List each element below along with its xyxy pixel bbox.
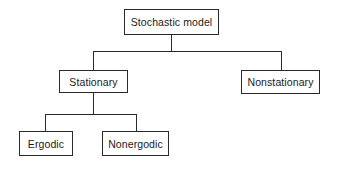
node-stochastic-model: Stochastic model	[124, 9, 219, 35]
connector-to-stationary	[93, 51, 94, 70]
node-nonstationary: Nonstationary	[241, 70, 320, 94]
connector-level2-bar	[45, 114, 137, 115]
connector-root-down	[171, 35, 172, 51]
node-ergodic: Ergodic	[19, 131, 73, 156]
connector-stationary-down	[93, 92, 94, 114]
connector-to-nonstationary	[281, 51, 282, 70]
node-stationary: Stationary	[59, 70, 128, 93]
connector-to-nonergodic	[136, 114, 137, 131]
node-nonergodic: Nonergodic	[102, 131, 169, 156]
connector-to-ergodic	[45, 114, 46, 131]
connector-level1-bar	[93, 51, 282, 52]
